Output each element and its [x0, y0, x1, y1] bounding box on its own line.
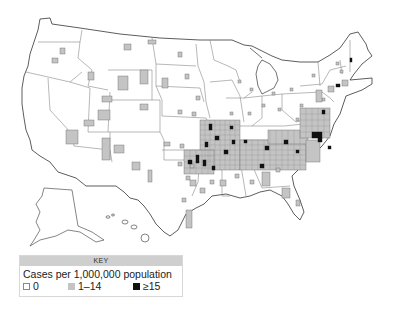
legend-item-zero: 0: [23, 280, 68, 292]
hawaii: [106, 214, 149, 242]
legend-title: Cases per 1,000,000 population: [20, 268, 182, 280]
legend-items: 0 1–14 ≥15: [20, 280, 182, 292]
legend-header: KEY: [20, 256, 182, 266]
black-swatch-icon: [133, 283, 140, 290]
legend-label-high: ≥15: [143, 280, 160, 292]
legend-label-zero: 0: [33, 280, 39, 292]
gray-swatch-icon: [68, 283, 75, 290]
map-legend: KEY Cases per 1,000,000 population 0 1–1…: [19, 255, 183, 297]
legend-label-low: 1–14: [78, 280, 101, 292]
legend-item-low: 1–14: [68, 280, 133, 292]
alaska: [30, 188, 104, 246]
white-swatch-icon: [23, 283, 30, 290]
legend-item-high: ≥15: [133, 280, 160, 292]
